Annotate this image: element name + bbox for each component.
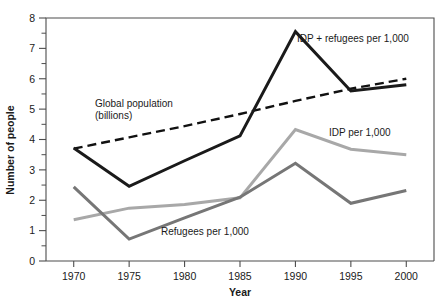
x-tick-label: 1990 [284, 270, 308, 282]
y-axis-ticks [39, 18, 46, 261]
y-tick-label: 5 [29, 103, 35, 115]
series-label-global-population-l1: Global population [95, 98, 173, 109]
y-tick-label: 1 [29, 224, 35, 236]
plot-frame [46, 18, 434, 261]
series-line-idp-per-1-000 [74, 129, 407, 219]
chart-figure: 012345678 1970197519801985199019952000 I… [0, 0, 443, 304]
x-axis-title: Year [229, 286, 251, 298]
y-tick-label: 7 [29, 42, 35, 54]
line-chart: 012345678 1970197519801985199019952000 I… [0, 0, 443, 304]
series-label-global-population-l2: (billions) [95, 110, 132, 121]
series-label-idp: IDP per 1,000 [329, 127, 391, 138]
x-axis-ticks [74, 261, 407, 267]
series-label-idp-refugees: IDP + refugees per 1,000 [297, 33, 409, 44]
y-tick-label: 6 [29, 73, 35, 85]
x-tick-label: 1975 [117, 270, 141, 282]
y-axis-tick-labels: 012345678 [29, 12, 35, 267]
x-tick-label: 1995 [339, 270, 363, 282]
x-tick-label: 1970 [62, 270, 86, 282]
y-tick-label: 8 [29, 12, 35, 24]
y-axis-title: Number of people [4, 105, 16, 194]
x-axis-tick-labels: 1970197519801985199019952000 [62, 270, 418, 282]
y-tick-label: 4 [29, 133, 35, 145]
x-tick-label: 2000 [395, 270, 419, 282]
x-tick-label: 1980 [173, 270, 197, 282]
series-label-refugees: Refugees per 1,000 [161, 226, 249, 237]
y-tick-label: 3 [29, 164, 35, 176]
x-tick-label: 1985 [228, 270, 252, 282]
y-tick-label: 0 [29, 255, 35, 267]
y-tick-label: 2 [29, 194, 35, 206]
